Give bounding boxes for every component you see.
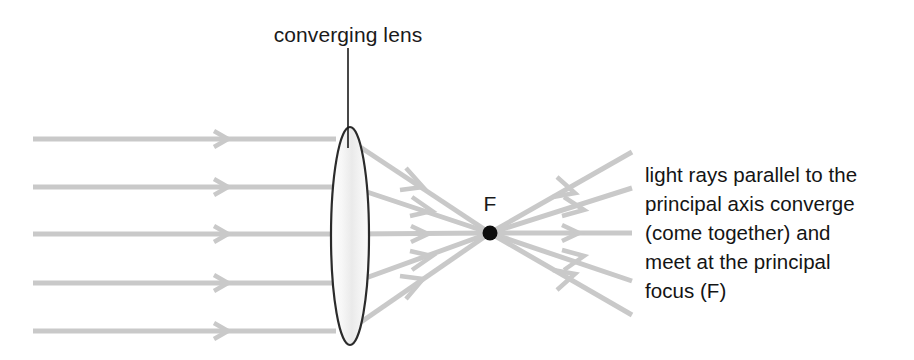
caption-line: principal axis converge (645, 189, 907, 218)
incoming-ray (33, 179, 336, 195)
diagram-canvas: converging lens F light rays parallel to… (0, 0, 914, 360)
incoming-ray-group (33, 131, 336, 339)
incoming-ray (33, 323, 336, 339)
caption-text-block: light rays parallel to the principal axi… (645, 160, 907, 305)
principal-focus-point (483, 226, 498, 241)
converging-ray (352, 187, 490, 233)
converging-lens (331, 127, 369, 345)
lens-title-label: converging lens (274, 23, 423, 46)
diverging-ray-group (490, 152, 632, 315)
caption-line: (come together) and (645, 218, 907, 247)
converging-ray (352, 233, 490, 283)
incoming-ray (33, 275, 336, 291)
focus-point-label: F (484, 192, 497, 215)
caption-line: focus (F) (645, 276, 907, 305)
caption-line: meet at the principal (645, 247, 907, 276)
incoming-ray (33, 226, 336, 242)
caption-line: light rays parallel to the (645, 160, 907, 189)
incoming-ray (33, 131, 336, 147)
